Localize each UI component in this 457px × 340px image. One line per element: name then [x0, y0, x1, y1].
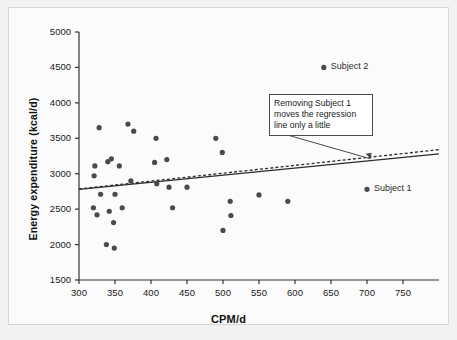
data-point	[125, 122, 130, 127]
data-point	[111, 220, 116, 225]
data-point	[94, 212, 99, 217]
callout-line-2: moves the regression	[274, 109, 368, 120]
x-tick-label: 700	[350, 287, 384, 298]
y-tick-label: 5000	[37, 26, 71, 37]
callout-box: Removing Subject 1 moves the regression …	[269, 94, 373, 136]
y-tick-label: 3500	[37, 132, 71, 143]
data-point	[220, 150, 225, 155]
scatter-plot-svg	[9, 8, 450, 326]
data-point	[228, 213, 233, 218]
data-point	[120, 205, 125, 210]
data-point	[128, 178, 133, 183]
y-tick-label: 1500	[37, 274, 71, 285]
data-point	[109, 156, 114, 161]
callout-line-3: line only a little	[274, 120, 368, 131]
data-point	[364, 187, 369, 192]
data-point	[152, 160, 157, 165]
data-point	[220, 228, 225, 233]
data-point	[170, 205, 175, 210]
data-point	[92, 173, 97, 178]
plot-panel: 15002000250030003500400045005000 3003504…	[8, 7, 449, 325]
data-point	[91, 205, 96, 210]
x-tick-label: 650	[314, 287, 348, 298]
y-tick-label: 2500	[37, 203, 71, 214]
data-point	[213, 136, 218, 141]
data-point	[228, 199, 233, 204]
data-point	[166, 185, 171, 190]
data-point	[131, 129, 136, 134]
data-point	[98, 192, 103, 197]
callout-line-1: Removing Subject 1	[274, 98, 368, 109]
data-point	[104, 242, 109, 247]
x-tick-label: 600	[278, 287, 312, 298]
callout-leader-line	[277, 132, 372, 159]
x-tick-label: 350	[98, 287, 132, 298]
x-tick-label: 300	[62, 287, 96, 298]
x-tick-label: 500	[206, 287, 240, 298]
data-point	[256, 192, 261, 197]
figure-container: 15002000250030003500400045005000 3003504…	[0, 0, 457, 340]
leader-line	[277, 132, 371, 159]
subject-label-2: Subject 2	[331, 61, 369, 71]
x-tick-label: 550	[242, 287, 276, 298]
subject-label-1: Subject 1	[374, 183, 412, 193]
x-tick-label: 400	[134, 287, 168, 298]
x-tick-label: 450	[170, 287, 204, 298]
data-point	[285, 199, 290, 204]
data-point	[97, 125, 102, 130]
data-point	[164, 157, 169, 162]
data-point	[107, 209, 112, 214]
y-axis-title: Energy expenditure (kcal/d)	[27, 59, 39, 279]
y-tick-label: 4500	[37, 61, 71, 72]
data-point	[112, 192, 117, 197]
y-tick-label: 2000	[37, 239, 71, 250]
data-point	[112, 246, 117, 251]
y-tick-label: 4000	[37, 97, 71, 108]
y-tick-label: 3000	[37, 168, 71, 179]
data-point	[154, 181, 159, 186]
data-point	[117, 163, 122, 168]
x-axis-title: CPM/d	[9, 313, 448, 325]
data-point	[153, 136, 158, 141]
data-point	[92, 163, 97, 168]
data-point	[184, 185, 189, 190]
data-points	[91, 65, 370, 251]
x-tick-label: 750	[386, 287, 420, 298]
data-point	[321, 65, 326, 70]
